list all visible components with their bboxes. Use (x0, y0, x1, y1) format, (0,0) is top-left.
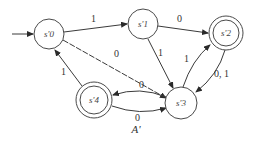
edge-label-s2-s3: 0, 1 (214, 68, 229, 79)
state-label-s3: s'3 (176, 98, 186, 108)
diagram-caption: A' (130, 123, 141, 135)
state-s1: s'1 (128, 9, 158, 39)
edge-label-s4-s3: 0 (135, 112, 140, 123)
edge-label-s3-s4: 0 (139, 79, 144, 90)
state-s4: s'4 (76, 82, 112, 118)
state-s2: s'2 (209, 16, 243, 50)
state-label-s1: s'1 (138, 19, 148, 29)
edge-label-s3-s2: 1 (184, 53, 189, 64)
edge-s0-s1 (64, 24, 127, 32)
state-label-s0: s'0 (44, 29, 54, 39)
edge-label-s0-s1: 1 (91, 13, 96, 24)
edge-label-s0-s3: 0 (114, 48, 119, 59)
edge-s3-s4 (113, 91, 166, 97)
automaton-diagram: 1 0 0 1 1 0, 1 0 0 1 s'0 s'1 s'2 s'3 s'4 (0, 0, 259, 145)
edge-label-s1-s2: 0 (177, 13, 182, 24)
edge-label-s1-s3: 1 (158, 47, 163, 58)
state-label-s2: s'2 (221, 28, 231, 38)
edge-s4-s0 (55, 50, 82, 86)
edge-s4-s3 (112, 106, 166, 112)
edge-s1-s2 (158, 26, 208, 33)
edge-s3-s2 (183, 45, 210, 87)
state-s0: s'0 (34, 19, 64, 49)
edge-label-s4-s0: 1 (61, 66, 66, 77)
state-s3: s'3 (165, 87, 197, 119)
state-label-s4: s'4 (89, 95, 99, 105)
